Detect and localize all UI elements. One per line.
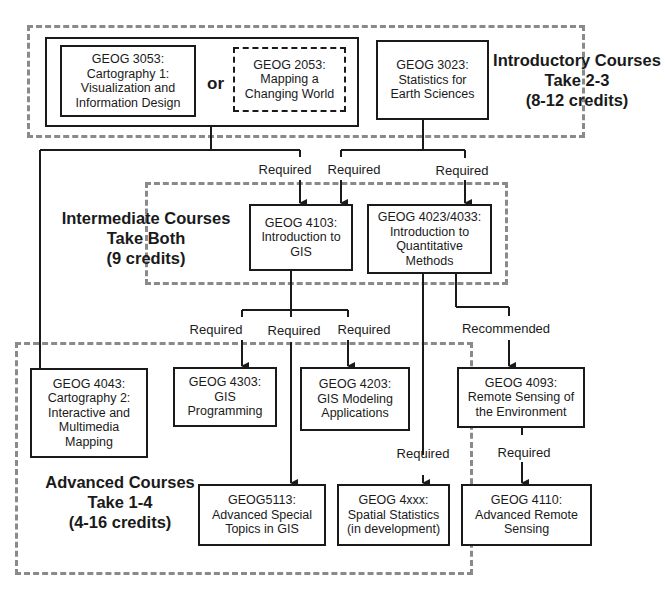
course-code: GEOG 3023: [396, 58, 468, 73]
intermediate-section-label: Intermediate Courses Take Both (9 credit… [56, 208, 236, 268]
course-code: GEOG 3053: [92, 52, 164, 67]
course-geog-2053[interactable]: GEOG 2053: Mapping a Changing World [233, 47, 346, 112]
section-rule: Take 2-3 [492, 70, 662, 90]
course-title-line: Topics in GIS [225, 522, 299, 537]
course-geog-4xxx[interactable]: GEOG 4xxx: Spatial Statistics (in develo… [337, 484, 450, 546]
edge-label-gis-to-special-topics: Required [268, 323, 321, 338]
course-title-line: the Environment [475, 405, 566, 420]
introductory-section-label: Introductory Courses Take 2-3 (8-12 cred… [492, 50, 662, 110]
course-title-line: Information Design [76, 96, 181, 111]
course-title-line: Statistics for [398, 73, 466, 88]
course-title-line: Mapping [65, 435, 113, 450]
course-title-line: Methods [406, 254, 454, 269]
course-code: GEOG 4xxx: [358, 493, 428, 508]
course-code: GEOG 2053: [253, 58, 325, 73]
course-title-line: Advanced Remote [475, 508, 578, 523]
course-code: GEOG 4043: [53, 377, 125, 392]
course-geog-4043[interactable]: GEOG 4043: Cartography 2: Interactive an… [30, 368, 148, 458]
section-rule: Take 1-4 [40, 492, 200, 512]
course-code: GEOG5113: [228, 493, 296, 508]
section-credits: (9 credits) [56, 248, 236, 268]
course-title-line: Cartography 1: [87, 67, 170, 82]
course-title-line: Introduction to [390, 225, 469, 240]
edge-label-remote-sensing-to-adv-rs: Required [498, 445, 551, 460]
edge-label-quant-to-remote-sensing: Recommended [462, 321, 550, 336]
course-code: GEOG 4203: [319, 377, 391, 392]
course-title-line: Cartography 2: [48, 391, 131, 406]
course-title-line: GIS [290, 245, 312, 260]
course-geog-3023[interactable]: GEOG 3023: Statistics for Earth Sciences [376, 40, 489, 120]
section-title: Introductory Courses [492, 50, 662, 70]
edge-label-quant-to-spatial-stats: Required [397, 446, 450, 461]
course-title-line: Spatial Statistics [348, 508, 440, 523]
course-title-line: Introduction to [261, 230, 340, 245]
course-geog-4023-4033[interactable]: GEOG 4023/4033: Introduction to Quantita… [367, 204, 492, 274]
advanced-section-label: Advanced Courses Take 1-4 (4-16 credits) [40, 472, 200, 532]
course-title-line: (in development) [347, 522, 440, 537]
course-code: GEOG 4093: [485, 376, 557, 391]
course-title-line: Advanced Special [212, 508, 312, 523]
course-code: GEOG 4110: [491, 493, 562, 508]
section-rule: Take Both [56, 228, 236, 248]
section-title: Advanced Courses [40, 472, 200, 492]
course-title-line: Interactive and [48, 406, 130, 421]
course-title-line: Sensing [504, 522, 549, 537]
section-credits: (4-16 credits) [40, 512, 200, 532]
course-title-line: Multimedia [59, 420, 119, 435]
or-label: or [207, 74, 224, 94]
edge-label-gis-to-modeling: Required [338, 322, 391, 337]
course-title-line: Remote Sensing of [468, 390, 574, 405]
course-code: GEOG 4303: [189, 375, 261, 390]
course-code: GEOG 4103: [265, 216, 337, 231]
section-title: Intermediate Courses [56, 208, 236, 228]
course-title-line: Visualization and [81, 81, 175, 96]
course-geog-5113[interactable]: GEOG5113: Advanced Special Topics in GIS [198, 484, 326, 546]
course-title-line: Applications [321, 406, 388, 421]
course-geog-4103[interactable]: GEOG 4103: Introduction to GIS [249, 204, 353, 271]
course-geog-4093[interactable]: GEOG 4093: Remote Sensing of the Environ… [457, 367, 585, 428]
edge-label-stats-to-quant: Required [436, 163, 489, 178]
course-geog-4203[interactable]: GEOG 4203: GIS Modeling Applications [300, 367, 410, 431]
course-geog-3053[interactable]: GEOG 3053: Cartography 1: Visualization … [60, 45, 196, 117]
course-title-line: Changing World [245, 87, 334, 102]
course-title-line: Mapping a [260, 72, 318, 87]
course-title-line: Earth Sciences [390, 87, 474, 102]
course-title-line: GIS Modeling [317, 392, 393, 407]
course-geog-4110[interactable]: GEOG 4110: Advanced Remote Sensing [461, 484, 592, 546]
edge-label-gis-to-programming: Required [190, 322, 243, 337]
course-geog-4303[interactable]: GEOG 4303: GIS Programming [173, 367, 277, 427]
course-title-line: Quantitative [396, 239, 463, 254]
course-title-line: GIS [214, 390, 236, 405]
section-credits: (8-12 credits) [492, 90, 662, 110]
course-code: GEOG 4023/4033: [378, 210, 482, 225]
edge-label-stats-to-gis: Required [328, 162, 381, 177]
course-title-line: Programming [187, 404, 262, 419]
edge-label-cart1-to-gis: Required [259, 162, 312, 177]
